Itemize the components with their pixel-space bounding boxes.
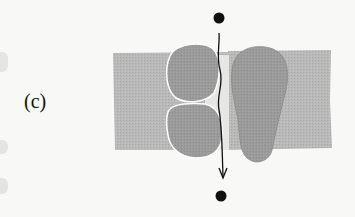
upper-left-subunit	[167, 44, 220, 102]
top-dot	[214, 13, 225, 24]
bottom-dot	[216, 191, 227, 202]
lower-left-subunit	[167, 104, 223, 158]
channel-diagram	[0, 0, 355, 217]
